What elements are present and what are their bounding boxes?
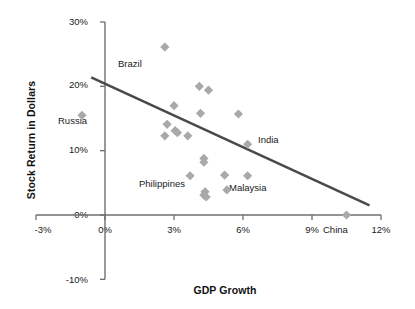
trend-line [91,77,369,205]
data-point [186,171,195,180]
data-point [183,131,192,140]
data-point [160,131,169,140]
data-point [220,171,229,180]
data-point [204,86,213,95]
plot-area [0,0,415,309]
data-point [195,82,204,91]
data-point-russia [77,111,86,120]
data-point [196,109,205,118]
scatter-chart-figure: Stock Return in Dollars GDP Growth 30% 2… [0,0,415,309]
data-point [243,171,252,180]
data-point [234,109,243,118]
data-point-brazil [160,42,169,51]
data-point-china [342,210,351,219]
data-point [163,120,172,129]
data-point [169,101,178,110]
data-point-malaysia [222,185,231,194]
